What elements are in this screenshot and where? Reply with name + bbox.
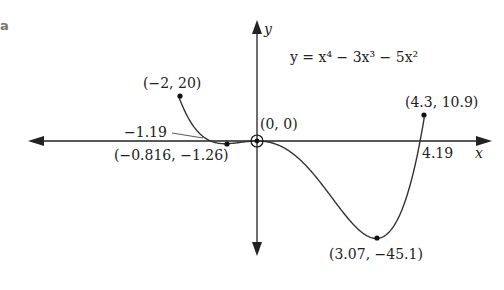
point-local-min-1	[224, 141, 229, 146]
x-axis-label: x	[475, 146, 483, 160]
label-endpoint: (4.3, 10.9)	[405, 95, 478, 109]
point-endpoint	[421, 112, 426, 117]
y-axis-down-arrow-icon	[252, 242, 262, 256]
function-curve	[179, 98, 424, 239]
point-neg2	[177, 93, 182, 98]
label-origin: (0, 0)	[260, 117, 298, 131]
label-intercept-neg: −1.19	[124, 125, 167, 139]
x-axis-left-arrow-icon	[28, 136, 44, 146]
point-origin	[255, 139, 260, 144]
intercept-leader-line	[172, 133, 203, 138]
label-neg2: (−2, 20)	[143, 76, 201, 90]
y-axis-up-arrow-icon	[252, 20, 262, 34]
label-local-min-2: (3.07, −45.1)	[329, 247, 423, 261]
equation-label: y = x⁴ − 3x³ − 5x²	[290, 50, 418, 64]
point-local-min-2	[374, 235, 379, 240]
label-intercept-pos: 4.19	[422, 146, 453, 160]
y-axis-label: y	[264, 22, 272, 36]
label-local-min-1: (−0.816, −1.26)	[114, 148, 229, 162]
